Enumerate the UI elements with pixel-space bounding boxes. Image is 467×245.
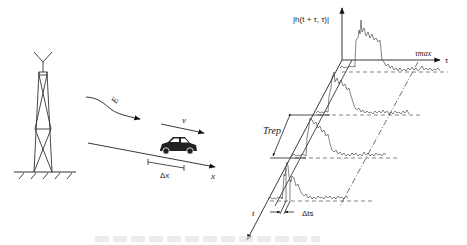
time-axis: t [247, 60, 342, 240]
wave-label: E [109, 95, 121, 106]
tau-max-label: τmax [415, 49, 432, 58]
diagram-canvas: E v x Δx t |h(t + τ, τ)| τ τma [0, 0, 467, 245]
impulse-response-trace-4 [268, 162, 375, 201]
repetition-period-dimension [270, 115, 330, 158]
displacement-bracket [148, 159, 184, 171]
velocity-label: v [182, 115, 186, 125]
sampling-interval-dimension [270, 201, 294, 214]
impulse-response-trace-1 [340, 20, 448, 72]
tau-axis-label: τ [445, 56, 449, 65]
transmitter-tower-icon [14, 52, 76, 179]
tau-max-line [340, 62, 418, 206]
amplitude-axis: |h(t + τ, τ)| [293, 8, 342, 60]
wave-arrow: E [86, 95, 140, 119]
tau-axis: τ τmax [342, 49, 449, 65]
displacement-label: Δx [160, 171, 169, 180]
pulse-start-line [275, 60, 352, 206]
repetition-period-label: Trep [263, 125, 281, 136]
velocity-arrow: v [161, 115, 204, 133]
time-axis-label: t [252, 208, 255, 218]
x-axis-label: x [210, 171, 215, 181]
figure-caption [95, 236, 320, 242]
amplitude-axis-label: |h(t + τ, τ)| [293, 15, 329, 24]
sampling-interval-label: Δts [302, 209, 314, 218]
impulse-response-trace-2 [316, 72, 423, 115]
car-icon [160, 137, 197, 154]
